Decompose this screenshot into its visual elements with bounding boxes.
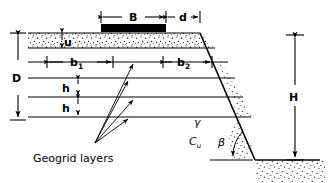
label-D: D — [12, 72, 21, 85]
label-beta: β — [217, 136, 225, 149]
label-b2: b2 — [177, 56, 190, 71]
label-cohesion: Cu — [189, 135, 202, 150]
label-b1: b1 — [70, 56, 83, 71]
label-h-1: h — [62, 82, 70, 95]
geogrid-leader-arrows — [95, 64, 133, 143]
diagram-canvas: B d D u b1 b2 — [0, 0, 329, 183]
strip-footing — [101, 24, 166, 32]
label-u: u — [64, 36, 72, 49]
upper-soil-band — [28, 33, 215, 48]
label-B: B — [129, 11, 137, 24]
geotechnical-slope-diagram: B d D u b1 b2 — [0, 0, 329, 183]
label-H: H — [289, 91, 298, 104]
foundation-ground — [255, 161, 325, 182]
label-d: d — [179, 11, 187, 24]
geogrid-layers-caption: Geogrid layers — [33, 152, 114, 165]
label-h-2: h — [62, 102, 70, 115]
label-unit-weight: γ — [194, 116, 201, 129]
